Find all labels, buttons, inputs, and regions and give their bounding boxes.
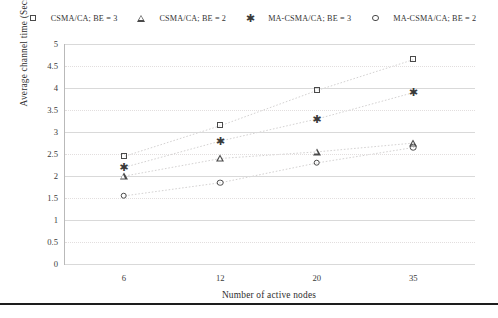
series-trend-line xyxy=(125,143,414,176)
gridline xyxy=(65,198,475,199)
y-axis-tick-label: 0 xyxy=(18,259,58,269)
chart-legend: CSMA/CA; BE = 3 CSMA/CA; BE = 2 ✱ MA-CSM… xyxy=(0,8,498,28)
y-axis-tick-label: 0.5 xyxy=(18,237,58,247)
legend-label: MA-CSMA/CA; BE = 3 xyxy=(268,14,351,23)
gridline xyxy=(65,220,475,221)
plot-area xyxy=(64,44,475,265)
y-axis-tick-label: 1.5 xyxy=(18,193,58,203)
gridline xyxy=(65,88,475,89)
series-trend-line xyxy=(125,59,414,156)
gridline xyxy=(65,132,475,133)
figure-container: CSMA/CA; BE = 3 CSMA/CA; BE = 2 ✱ MA-CSM… xyxy=(0,0,498,318)
gridline xyxy=(65,44,475,45)
y-axis-tick-label: 2 xyxy=(18,171,58,181)
circle-marker-icon xyxy=(364,11,386,25)
series-trend-line xyxy=(125,92,414,167)
legend-label: MA-CSMA/CA; BE = 2 xyxy=(393,14,476,23)
asterisk-marker-icon: ✱ xyxy=(239,11,261,25)
x-axis-tick-label: 6 xyxy=(94,273,154,283)
legend-item-macsma-be2: MA-CSMA/CA; BE = 2 xyxy=(364,11,476,25)
gridline xyxy=(65,176,475,177)
gridline xyxy=(65,264,475,265)
gridline xyxy=(65,154,475,155)
x-axis-tick-label: 35 xyxy=(383,273,443,283)
y-axis-title: Average channel time (Secs) xyxy=(19,0,29,160)
x-axis-tick-label: 20 xyxy=(287,273,347,283)
gridline xyxy=(65,110,475,111)
gridline xyxy=(65,242,475,243)
x-axis-tick-label: 12 xyxy=(190,273,250,283)
legend-label: CSMA/CA; BE = 2 xyxy=(159,14,226,23)
footer-rule xyxy=(0,303,498,305)
x-axis-title: Number of active nodes xyxy=(64,290,474,300)
y-axis-tick-label: 1 xyxy=(18,215,58,225)
triangle-marker-icon xyxy=(130,11,152,25)
legend-label: CSMA/CA; BE = 3 xyxy=(51,14,118,23)
legend-item-macsma-be3: ✱ MA-CSMA/CA; BE = 3 xyxy=(239,11,351,25)
gridline xyxy=(65,66,475,67)
legend-item-csma-be3: CSMA/CA; BE = 3 xyxy=(22,11,118,25)
legend-item-csma-be2: CSMA/CA; BE = 2 xyxy=(130,11,226,25)
